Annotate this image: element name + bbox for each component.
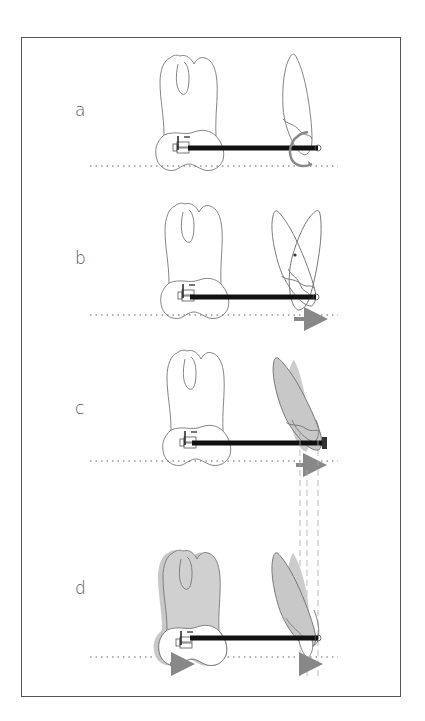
molar-tooth	[163, 350, 231, 465]
panel-a	[90, 54, 338, 170]
panel-b	[90, 203, 338, 319]
panel-c	[90, 350, 338, 465]
molar-tooth	[156, 55, 224, 170]
diagram-canvas	[0, 0, 425, 721]
wire-stop	[322, 437, 327, 449]
molar-tooth	[161, 203, 229, 318]
center-of-rotation-dot	[293, 253, 296, 256]
canine-tooth	[283, 54, 312, 155]
panel-d	[90, 548, 338, 665]
